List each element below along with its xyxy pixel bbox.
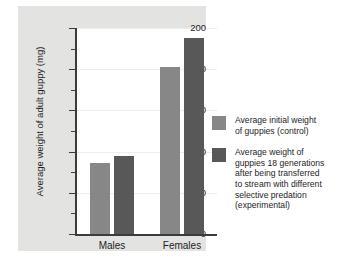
bar <box>160 67 180 234</box>
bar <box>184 38 204 234</box>
bar <box>114 156 134 234</box>
guppy-weight-bar-chart: 04080120160200 Average weight of adult g… <box>0 0 355 265</box>
legend-item: Average initial weightof guppies (contro… <box>212 115 352 136</box>
legend-swatch <box>212 148 226 162</box>
bar <box>90 163 110 234</box>
chart-legend: Average initial weightof guppies (contro… <box>212 115 352 222</box>
legend-item: Average weight ofguppies 18 generationsa… <box>212 147 352 211</box>
bars-layer <box>77 28 217 234</box>
chart-panel: 04080120160200 Average weight of adult g… <box>18 6 206 251</box>
y-axis-title: Average weight of adult guppy (mg) <box>34 32 45 212</box>
x-tick-label: Males <box>72 240 152 251</box>
x-tick-label: Females <box>142 240 222 251</box>
legend-label: Average initial weightof guppies (contro… <box>235 115 316 136</box>
x-axis-line <box>75 234 217 236</box>
legend-swatch <box>212 116 226 130</box>
legend-label: Average weight ofguppies 18 generationsa… <box>235 147 324 211</box>
